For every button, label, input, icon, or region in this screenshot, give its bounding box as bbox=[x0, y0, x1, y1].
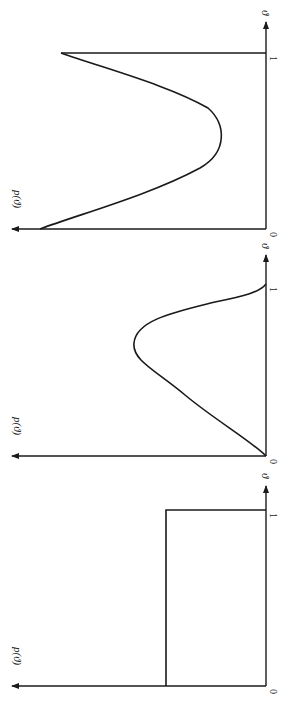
p-label-middle: p(ϑ) bbox=[11, 416, 24, 436]
u-shaped-curve bbox=[40, 53, 221, 229]
bell-curve bbox=[134, 284, 266, 456]
uniform-density bbox=[166, 510, 266, 686]
theta-label-middle: ϑ bbox=[260, 243, 272, 249]
tick-zero-bottom: 0 bbox=[268, 689, 279, 694]
tick-zero-top: 0 bbox=[268, 232, 279, 237]
tick-one-top: 1 bbox=[268, 56, 279, 61]
panel-top-u-shaped: 0 1 ϑ p(ϑ) bbox=[11, 10, 279, 237]
theta-label-bottom: ϑ bbox=[260, 473, 272, 479]
p-label-top: p(ϑ) bbox=[11, 189, 24, 209]
panel-middle-bell: 0 1 ϑ p(ϑ) bbox=[11, 243, 279, 464]
theta-label-top: ϑ bbox=[260, 10, 272, 16]
tick-zero-middle: 0 bbox=[268, 459, 279, 464]
tick-one-bottom: 1 bbox=[268, 513, 279, 518]
tick-one-middle: 1 bbox=[268, 287, 279, 292]
panel-bottom-uniform: 0 1 ϑ p(ϑ) bbox=[11, 473, 279, 694]
figure-three-densities: 0 1 ϑ p(ϑ) 0 1 ϑ p(ϑ) 0 1 ϑ p(ϑ) bbox=[0, 0, 299, 703]
p-label-bottom: p(ϑ) bbox=[11, 646, 24, 666]
